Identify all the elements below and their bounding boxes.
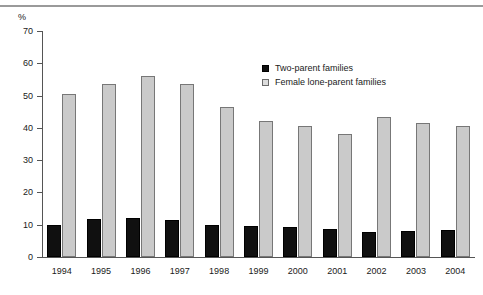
bar-two-parent-2004	[441, 230, 455, 257]
bar-female-lone-parent-2002	[377, 117, 391, 257]
legend-label-female-lone-parent: Female lone-parent families	[275, 77, 386, 87]
x-axis-label-2004: 2004	[435, 266, 475, 277]
chart-figure: % 706050403020100 1994199519961997199819…	[0, 0, 483, 295]
legend-swatch-female-lone-parent-icon	[262, 79, 269, 86]
bar-two-parent-1996	[126, 218, 140, 257]
bar-female-lone-parent-1998	[220, 107, 234, 257]
x-axis-label-1996: 1996	[120, 266, 160, 277]
bar-female-lone-parent-2000	[298, 126, 312, 257]
bars-layer	[0, 0, 483, 295]
bar-two-parent-1997	[165, 220, 179, 257]
bar-female-lone-parent-1997	[180, 84, 194, 257]
bar-female-lone-parent-2001	[338, 134, 352, 257]
legend-item-two-parent: Two-parent families	[262, 62, 432, 74]
x-axis-label-1999: 1999	[239, 266, 279, 277]
bar-two-parent-2002	[362, 232, 376, 257]
bar-two-parent-1999	[244, 226, 258, 257]
bar-two-parent-2001	[323, 229, 337, 257]
bar-female-lone-parent-2003	[416, 123, 430, 257]
legend-label-two-parent: Two-parent families	[275, 63, 353, 73]
bar-female-lone-parent-2004	[456, 126, 470, 257]
bar-female-lone-parent-1995	[102, 84, 116, 257]
bar-two-parent-2003	[401, 231, 415, 257]
bar-female-lone-parent-1994	[62, 94, 76, 257]
x-axis-label-2001: 2001	[317, 266, 357, 277]
bar-two-parent-1998	[205, 225, 219, 257]
x-axis-label-1997: 1997	[160, 266, 200, 277]
legend-item-female-lone-parent: Female lone-parent families	[262, 76, 432, 88]
x-axis-label-2003: 2003	[396, 266, 436, 277]
legend-swatch-two-parent-icon	[262, 65, 269, 72]
bar-female-lone-parent-1996	[141, 76, 155, 257]
x-axis-label-2000: 2000	[278, 266, 318, 277]
x-axis-label-1994: 1994	[42, 266, 82, 277]
bar-female-lone-parent-1999	[259, 121, 273, 257]
x-axis-label-1995: 1995	[81, 266, 121, 277]
bar-two-parent-1994	[47, 225, 61, 257]
chart-legend: Two-parent families Female lone-parent f…	[262, 62, 432, 90]
bar-two-parent-2000	[283, 227, 297, 257]
x-axis-label-1998: 1998	[199, 266, 239, 277]
bar-two-parent-1995	[87, 219, 101, 257]
x-axis-label-2002: 2002	[357, 266, 397, 277]
